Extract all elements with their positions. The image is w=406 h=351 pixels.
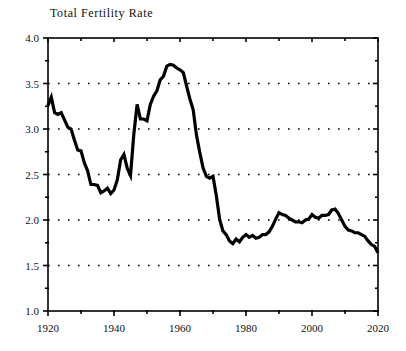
y-tick-label: 3.0 <box>25 123 39 135</box>
x-tick-label: 1940 <box>103 322 126 334</box>
data-series-group <box>48 64 378 252</box>
y-tick-label: 2.5 <box>25 169 39 181</box>
x-tick-label: 1980 <box>235 322 258 334</box>
x-tick-label: 2000 <box>301 322 324 334</box>
y-tick-label: 3.5 <box>25 78 39 90</box>
y-tick-label: 1.0 <box>25 305 39 317</box>
fertility-rate-chart: Total Fertility Rate 4.03.53.02.52.01.51… <box>0 0 406 351</box>
x-axis-tick-labels: 192019401960198020002020 <box>37 322 390 334</box>
x-tick-label: 1960 <box>169 322 192 334</box>
x-tick-label: 2020 <box>367 322 390 334</box>
chart-plot-area: 4.03.53.02.52.01.51.0 192019401960198020… <box>0 0 406 351</box>
series-line <box>48 64 378 252</box>
x-tick-label: 1920 <box>37 322 60 334</box>
y-tick-label: 4.0 <box>25 32 39 44</box>
y-tick-label: 1.5 <box>25 260 39 272</box>
y-axis-tick-labels: 4.03.53.02.52.01.51.0 <box>25 32 39 317</box>
y-tick-label: 2.0 <box>25 214 39 226</box>
